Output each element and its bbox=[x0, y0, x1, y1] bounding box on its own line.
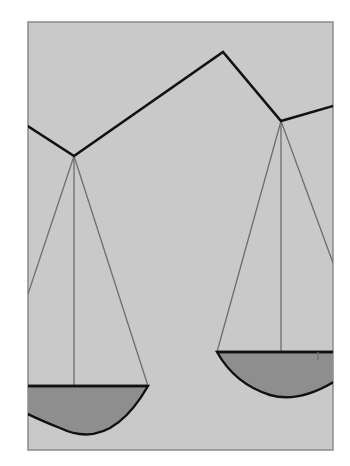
balance-scale-illustration bbox=[0, 0, 350, 466]
